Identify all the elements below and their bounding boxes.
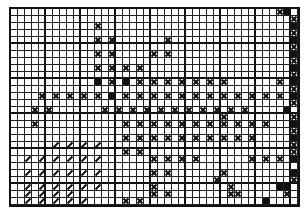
chart-cell [263,100,270,107]
chart-cell [130,23,137,30]
chart-cell [60,191,67,198]
chart-cell [11,51,18,58]
chart-cell [235,170,242,177]
chart-cell [102,184,109,191]
chart-cell [270,44,277,51]
cross-stitch-cell [193,121,200,128]
chart-cell [200,9,207,16]
chart-cell [109,163,116,170]
chart-cell [228,114,235,121]
cross-stitch-cell [193,135,200,142]
chart-cell [256,184,263,191]
cross-stitch-cell [179,79,186,86]
chart-cell [263,191,270,198]
chart-cell [249,72,256,79]
chart-cell [193,9,200,16]
cross-stitch-cell [116,107,123,114]
chart-cell [186,86,193,93]
chart-cell [270,142,277,149]
chart-cell [256,9,263,16]
chart-cell [39,163,46,170]
chart-cell [95,128,102,135]
chart-cell [277,37,284,44]
chart-cell [151,58,158,65]
chart-cell [53,23,60,30]
cross-stitch-cell [228,107,235,114]
chart-cell [130,156,137,163]
chart-cell [53,177,60,184]
chart-cell [235,100,242,107]
chart-cell [109,114,116,121]
chart-cell [165,9,172,16]
chart-cell [214,149,221,156]
chart-cell [11,65,18,72]
chart-cell [221,65,228,72]
cross-stitch-cell [193,93,200,100]
chart-cell [18,191,25,198]
chart-cell [53,100,60,107]
chart-cell [200,198,207,205]
chart-cell [284,170,291,177]
cross-stitch-cell [179,121,186,128]
chart-cell [256,51,263,58]
cross-stitch-cell [291,30,298,37]
chart-cell [242,44,249,51]
cross-stitch-cell [151,51,158,58]
chart-cell [67,149,74,156]
chart-cell [179,9,186,16]
chart-cell [74,16,81,23]
chart-cell [88,156,95,163]
chart-cell [53,128,60,135]
chart-cell [25,58,32,65]
chart-cell [270,198,277,205]
chart-cell [18,114,25,121]
chart-cell [88,163,95,170]
chart-cell [158,128,165,135]
chart-cell [18,65,25,72]
chart-cell [130,72,137,79]
chart-cell [81,30,88,37]
chart-cell [284,79,291,86]
chart-cell [179,100,186,107]
chart-cell [102,191,109,198]
chart-cell [256,177,263,184]
chart-cell [144,30,151,37]
chart-cell [193,177,200,184]
chart-cell [25,16,32,23]
chart-cell [67,23,74,30]
chart-cell [172,86,179,93]
chart-cell [74,191,81,198]
chart-cell [165,16,172,23]
chart-cell [74,163,81,170]
chart-cell [137,184,144,191]
chart-cell [137,51,144,58]
chart-cell [25,177,32,184]
chart-cell [53,114,60,121]
chart-cell [200,58,207,65]
chart-cell [158,149,165,156]
chart-cell [60,23,67,30]
chart-cell [102,170,109,177]
chart-cell [88,100,95,107]
chart-cell [81,51,88,58]
chart-cell [25,135,32,142]
slash-cell [53,156,60,163]
chart-cell [46,198,53,205]
chart-cell [123,23,130,30]
chart-cell [179,51,186,58]
chart-cell [102,149,109,156]
chart-cell [25,149,32,156]
cross-stitch-cell [249,156,256,163]
chart-cell [263,37,270,44]
chart-cell [88,128,95,135]
chart-cell [116,177,123,184]
chart-cell [67,16,74,23]
chart-cell [95,198,102,205]
cross-stitch-cell [221,121,228,128]
chart-cell [60,135,67,142]
chart-cell [270,100,277,107]
chart-cell [179,184,186,191]
chart-cell [95,121,102,128]
chart-cell [102,156,109,163]
chart-cell [193,16,200,23]
